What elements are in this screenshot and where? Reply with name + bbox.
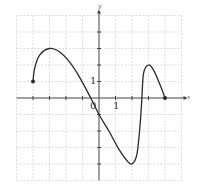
origin-label: 0: [90, 101, 96, 111]
axes: [17, 10, 188, 181]
x-tick-label-1: 1: [113, 101, 119, 111]
y-tick-label-1: 1: [90, 76, 96, 86]
y-axis-label: y: [98, 3, 101, 9]
x-axis-label: x: [187, 94, 190, 100]
function-graph: [0, 0, 198, 194]
